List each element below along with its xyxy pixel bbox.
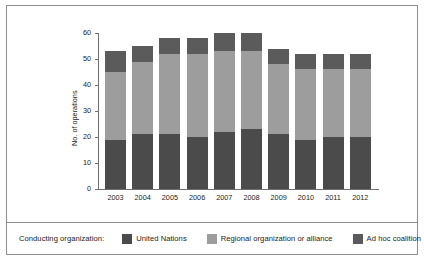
y-axis-tick-label: 40: [75, 81, 91, 89]
chart-legend: Conducting organization: United NationsR…: [7, 223, 417, 254]
y-axis-tick: [95, 85, 98, 86]
bar-stack: [241, 33, 262, 189]
plot-panel: No. of operations 0102030405060200320042…: [7, 6, 417, 222]
bar-segment: [105, 72, 126, 140]
x-axis-tick-label: 2003: [102, 193, 129, 202]
y-axis-tick-label: 60: [75, 29, 91, 37]
bar-segment: [187, 38, 208, 54]
legend-swatch: [353, 234, 363, 244]
bar-segment: [350, 69, 371, 137]
y-axis-tick: [95, 33, 98, 34]
x-axis-tick-label: 2009: [265, 193, 292, 202]
bar-stack: [159, 38, 180, 189]
legend-item: United Nations: [122, 234, 187, 244]
bar-segment: [187, 54, 208, 137]
x-axis-tick-label: 2010: [292, 193, 319, 202]
bar-segment: [214, 33, 235, 51]
bar-segment: [295, 54, 316, 70]
bar-stack: [105, 51, 126, 189]
y-axis-tick-label: 20: [75, 133, 91, 141]
bar-segment: [323, 69, 344, 137]
stacked-bar-chart: No. of operations 0102030405060200320042…: [7, 6, 417, 222]
y-axis-tick: [95, 163, 98, 164]
bar-segment: [241, 51, 262, 129]
bar-segment: [295, 69, 316, 139]
bar-stack: [295, 54, 316, 189]
bar-segment: [159, 38, 180, 54]
y-axis-tick-label: 50: [75, 55, 91, 63]
bar-segment: [323, 54, 344, 70]
x-axis-tick-label: 2004: [129, 193, 156, 202]
x-axis-tick-label: 2008: [238, 193, 265, 202]
x-axis-tick-label: 2011: [320, 193, 347, 202]
bar-segment: [187, 137, 208, 189]
y-axis-tick: [95, 137, 98, 138]
x-axis-tick-label: 2012: [347, 193, 374, 202]
bar-segment: [159, 54, 180, 135]
bar-stack: [350, 54, 371, 189]
bar-segment: [241, 33, 262, 51]
legend-item: Ad hoc coalition: [353, 234, 421, 244]
legend-item: Regional organization or alliance: [207, 234, 333, 244]
y-axis-tick-label: 30: [75, 107, 91, 115]
legend-swatch: [122, 234, 132, 244]
bar-segment: [350, 137, 371, 189]
bar-segment: [159, 134, 180, 189]
bar-segment: [132, 134, 153, 189]
bar-segment: [214, 51, 235, 132]
legend-label: Ad hoc coalition: [367, 234, 421, 243]
x-axis-tick-label: 2006: [184, 193, 211, 202]
legend-label: Regional organization or alliance: [221, 234, 333, 243]
bar-segment: [241, 129, 262, 189]
y-axis-tick-label: 0: [75, 185, 91, 193]
bar-segment: [132, 46, 153, 62]
bar-segment: [105, 140, 126, 189]
bar-segment: [105, 51, 126, 72]
bar-stack: [187, 38, 208, 189]
figure-frame: No. of operations 0102030405060200320042…: [6, 5, 418, 255]
y-axis-tick: [95, 189, 98, 190]
x-axis-tick-label: 2007: [211, 193, 238, 202]
bar-stack: [323, 54, 344, 189]
x-axis-tick-label: 2005: [156, 193, 183, 202]
legend-swatch: [207, 234, 217, 244]
bar-segment: [268, 134, 289, 189]
y-axis-line: [98, 33, 99, 190]
chart-page: No. of operations 0102030405060200320042…: [0, 0, 424, 264]
bar-stack: [268, 49, 289, 189]
y-axis-tick-label: 10: [75, 159, 91, 167]
x-axis-line: [98, 189, 379, 190]
bar-segment: [268, 49, 289, 65]
bar-segment: [132, 62, 153, 135]
legend-title: Conducting organization:: [19, 234, 104, 243]
y-axis-tick: [95, 59, 98, 60]
bar-segment: [214, 132, 235, 189]
bar-segment: [295, 140, 316, 189]
legend-label: United Nations: [136, 234, 187, 243]
bar-stack: [214, 33, 235, 189]
bar-stack: [132, 46, 153, 189]
y-axis-tick: [95, 111, 98, 112]
bar-segment: [350, 54, 371, 70]
bar-segment: [268, 64, 289, 134]
bar-segment: [323, 137, 344, 189]
